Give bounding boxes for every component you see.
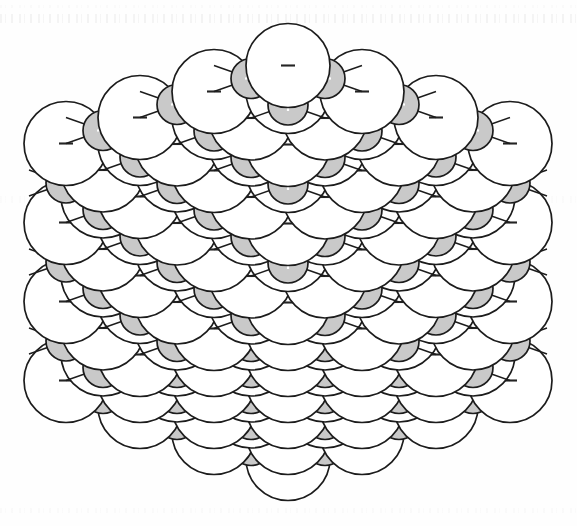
sphere-layer	[24, 24, 552, 501]
lattice-diagram	[0, 0, 577, 526]
crystal-lattice-figure	[0, 0, 577, 526]
anion-sphere	[246, 24, 330, 108]
